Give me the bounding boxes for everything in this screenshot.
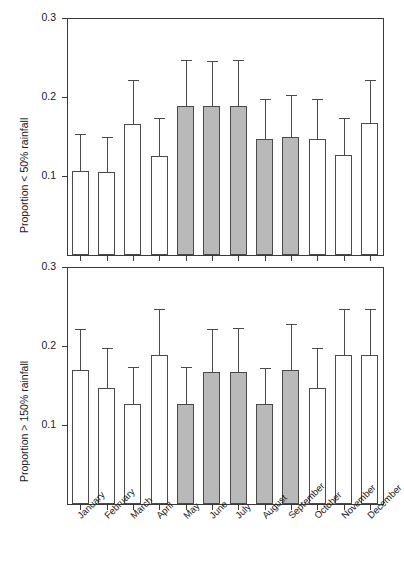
bar-august — [256, 139, 273, 255]
y-axis-tick-label: 0.1 — [26, 170, 56, 180]
y-axis-tick — [62, 425, 67, 426]
error-bar-stem-april — [159, 118, 160, 156]
bar-july — [230, 372, 247, 504]
error-bar-cap-october — [312, 99, 323, 100]
x-axis-tick — [133, 256, 134, 261]
error-bar-stem-march — [133, 367, 134, 404]
error-bar-cap-march — [128, 80, 139, 81]
bar-september — [282, 137, 299, 255]
error-bar-cap-february — [102, 137, 113, 138]
bar-may — [177, 106, 194, 255]
error-bar-cap-march — [128, 367, 139, 368]
error-bar-stem-may — [186, 60, 187, 106]
error-bar-stem-january — [80, 329, 81, 370]
error-bar-cap-august — [260, 368, 271, 369]
error-bar-stem-september — [291, 95, 292, 137]
x-axis-line — [67, 255, 384, 256]
error-bar-stem-june — [212, 329, 213, 372]
error-bar-cap-may — [181, 367, 192, 368]
y-axis-tick — [62, 176, 67, 177]
bar-january — [72, 370, 89, 504]
x-axis-tick — [238, 256, 239, 261]
bar-october — [309, 139, 326, 255]
x-axis-tick — [212, 256, 213, 261]
error-bar-stem-july — [238, 328, 239, 372]
error-bar-cap-april — [154, 309, 165, 310]
error-bar-stem-october — [317, 99, 318, 139]
bar-march — [124, 124, 141, 255]
error-bar-stem-december — [370, 80, 371, 123]
y-axis-tick — [62, 18, 67, 19]
bar-april — [151, 156, 168, 255]
x-axis-tick — [291, 256, 292, 261]
error-bar-stem-october — [317, 348, 318, 388]
x-axis-tick — [186, 256, 187, 261]
error-bar-cap-august — [260, 99, 271, 100]
bar-july — [230, 106, 247, 255]
error-bar-stem-march — [133, 80, 134, 124]
y-axis-tick-label: 0.3 — [26, 261, 56, 271]
error-bar-stem-january — [80, 134, 81, 171]
y-axis-tick — [62, 267, 67, 268]
error-bar-stem-february — [107, 137, 108, 172]
bar-august — [256, 404, 273, 504]
bar-november — [335, 155, 352, 255]
error-bar-stem-november — [344, 309, 345, 355]
y-axis-title: Proportion > 150% rainfall — [18, 361, 30, 482]
error-bar-cap-december — [365, 309, 376, 310]
bar-december — [361, 123, 378, 255]
bar-february — [98, 388, 115, 504]
error-bar-stem-june — [212, 61, 213, 106]
bar-september — [282, 370, 299, 504]
error-bar-stem-november — [344, 118, 345, 155]
error-bar-cap-october — [312, 348, 323, 349]
error-bar-cap-july — [233, 328, 244, 329]
x-axis-tick — [265, 256, 266, 261]
bar-november — [335, 355, 352, 504]
error-bar-cap-september — [286, 95, 297, 96]
y-axis-tick-label: 0.2 — [26, 91, 56, 101]
error-bar-cap-june — [207, 61, 218, 62]
error-bar-stem-august — [265, 99, 266, 139]
bar-january — [72, 171, 89, 255]
error-bar-cap-april — [154, 118, 165, 119]
error-bar-cap-january — [75, 329, 86, 330]
x-axis-tick — [370, 256, 371, 261]
error-bar-cap-november — [339, 309, 350, 310]
y-axis-tick-label: 0.1 — [26, 419, 56, 429]
error-bar-stem-april — [159, 309, 160, 355]
x-axis-tick — [80, 256, 81, 261]
error-bar-cap-september — [286, 324, 297, 325]
error-bar-stem-december — [370, 309, 371, 355]
error-bar-cap-may — [181, 60, 192, 61]
error-bar-stem-september — [291, 324, 292, 370]
x-axis-tick — [107, 256, 108, 261]
error-bar-stem-may — [186, 367, 187, 404]
bar-february — [98, 172, 115, 255]
x-axis-tick — [159, 256, 160, 261]
y-axis-tick — [62, 346, 67, 347]
error-bar-cap-january — [75, 134, 86, 135]
error-bar-cap-december — [365, 80, 376, 81]
bar-june — [203, 106, 220, 255]
y-axis-title: Proportion < 50% rainfall — [18, 118, 30, 233]
error-bar-cap-june — [207, 329, 218, 330]
error-bar-cap-july — [233, 60, 244, 61]
error-bar-stem-february — [107, 348, 108, 388]
error-bar-stem-july — [238, 60, 239, 106]
error-bar-cap-november — [339, 118, 350, 119]
y-axis-tick-label: 0.2 — [26, 340, 56, 350]
y-axis-tick — [62, 97, 67, 98]
bar-june — [203, 372, 220, 504]
x-axis-tick — [344, 256, 345, 261]
y-axis-tick-label: 0.3 — [26, 12, 56, 22]
x-axis-tick — [317, 256, 318, 261]
bar-may — [177, 404, 194, 504]
error-bar-cap-february — [102, 348, 113, 349]
bar-april — [151, 355, 168, 504]
error-bar-stem-august — [265, 368, 266, 404]
